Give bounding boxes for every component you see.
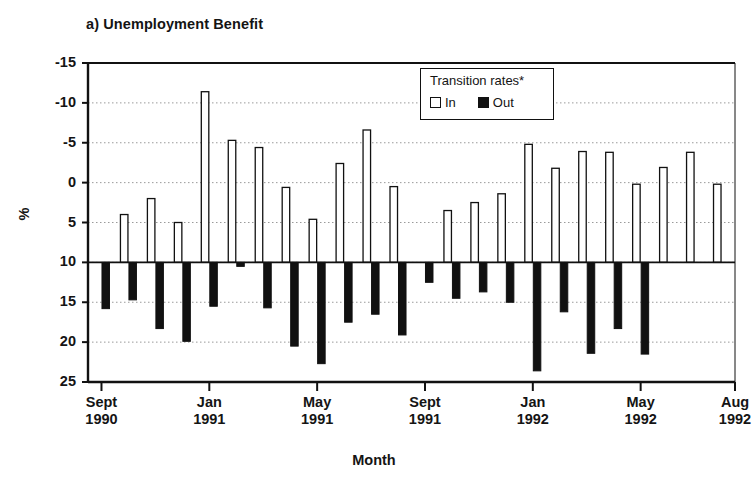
x-tick-month: Aug xyxy=(690,394,756,411)
black-square-icon xyxy=(478,97,489,108)
bar-in xyxy=(525,144,533,262)
y-tick-label: 25 xyxy=(22,373,76,389)
bar-in xyxy=(309,219,317,262)
bar-out xyxy=(318,262,326,363)
bar-out xyxy=(533,262,541,370)
bar-out xyxy=(183,262,191,341)
x-tick-year: 1990 xyxy=(56,411,146,428)
x-tick-month: May xyxy=(596,394,686,411)
bar-in xyxy=(444,211,452,263)
x-tick-label: May1991 xyxy=(272,394,362,428)
bar-out xyxy=(399,262,407,335)
bar-in xyxy=(282,187,290,262)
x-tick-label: May1992 xyxy=(596,394,686,428)
legend-item-out: Out xyxy=(478,95,514,110)
bar-in xyxy=(687,152,695,262)
bar-out xyxy=(372,262,380,314)
y-tick-label: 5 xyxy=(22,214,76,230)
bar-out xyxy=(102,262,110,308)
y-tick-label: 15 xyxy=(22,293,76,309)
bar-in xyxy=(498,194,506,263)
y-tick-label: 20 xyxy=(22,333,76,349)
bar-in xyxy=(174,223,182,263)
x-tick-month: Jan xyxy=(488,394,578,411)
x-tick-year: 1991 xyxy=(164,411,254,428)
legend-items: In Out xyxy=(430,95,514,110)
bar-out xyxy=(345,262,353,322)
bar-out xyxy=(587,262,595,353)
white-square-icon xyxy=(430,97,441,108)
x-tick-label: Sept1991 xyxy=(380,394,470,428)
y-tick-label: 0 xyxy=(22,174,76,190)
bar-in xyxy=(390,187,398,263)
bar-in xyxy=(363,130,371,262)
bar-in xyxy=(255,148,262,263)
x-tick-label: Sept1990 xyxy=(56,394,146,428)
chart-legend: Transition rates* In Out xyxy=(420,68,554,120)
bar-in xyxy=(660,167,668,262)
x-tick-label: Jan1991 xyxy=(164,394,254,428)
x-tick-label: Aug1992 xyxy=(690,394,756,428)
bar-out xyxy=(156,262,164,328)
x-tick-month: Jan xyxy=(164,394,254,411)
bars-series-out xyxy=(102,262,649,370)
x-tick-month: May xyxy=(272,394,362,411)
x-tick-label: Jan1992 xyxy=(488,394,578,428)
y-tick-label: -15 xyxy=(22,54,76,70)
bar-out xyxy=(452,262,460,298)
y-tick-label: -10 xyxy=(22,94,76,110)
bar-in xyxy=(201,92,209,263)
y-tick-label: -5 xyxy=(22,134,76,150)
legend-label-out: Out xyxy=(493,95,514,110)
x-tick-year: 1991 xyxy=(380,411,470,428)
bar-out xyxy=(479,262,487,292)
legend-label-in: In xyxy=(445,95,456,110)
bar-in xyxy=(336,163,344,262)
bar-in xyxy=(633,184,641,262)
bar-out xyxy=(291,262,299,346)
bar-in xyxy=(147,199,155,263)
bar-out xyxy=(210,262,218,306)
bar-out xyxy=(506,262,513,302)
legend-item-in: In xyxy=(430,95,456,110)
bar-out xyxy=(129,262,137,299)
x-tick-year: 1992 xyxy=(488,411,578,428)
bar-in xyxy=(471,203,479,263)
bar-in xyxy=(120,215,128,263)
bar-in xyxy=(606,152,614,262)
x-tick-year: 1992 xyxy=(596,411,686,428)
bar-in xyxy=(552,168,560,262)
bar-out xyxy=(425,262,433,282)
x-tick-month: Sept xyxy=(56,394,146,411)
bar-out xyxy=(614,262,622,328)
bar-out xyxy=(264,262,272,307)
x-tick-year: 1991 xyxy=(272,411,362,428)
x-tick-year: 1992 xyxy=(690,411,756,428)
bar-in xyxy=(714,184,722,262)
bar-in xyxy=(228,140,236,262)
bar-out xyxy=(560,262,568,311)
bar-out xyxy=(641,262,649,354)
legend-title: Transition rates* xyxy=(430,73,524,88)
y-tick-label: 10 xyxy=(22,253,76,269)
bar-in xyxy=(579,152,587,263)
x-tick-month: Sept xyxy=(380,394,470,411)
